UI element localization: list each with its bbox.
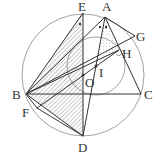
label-F: F [22, 105, 29, 120]
label-C: C [144, 87, 153, 102]
label-E: E [78, 0, 86, 14]
label-H: H [122, 46, 131, 61]
label-A: A [102, 0, 112, 14]
label-I: I [99, 65, 103, 80]
angle-mark-E [79, 23, 81, 25]
label-B: B [12, 87, 21, 102]
geometry-diagram: A B C D E F G H I O [0, 0, 158, 162]
angle-mark-A2 [105, 26, 107, 28]
label-D: D [78, 140, 87, 155]
label-G: G [136, 29, 145, 44]
label-O: O [85, 75, 94, 90]
point-I [95, 65, 98, 68]
hatched-triangle-BED [26, 13, 83, 136]
angle-mark-A1 [99, 26, 101, 28]
